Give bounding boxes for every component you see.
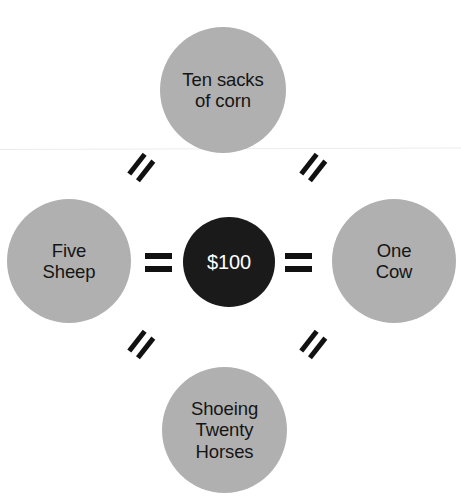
equals-bar-lower [145,266,172,272]
node-five-sheep[interactable]: Five Sheep [7,199,131,323]
equals-sign-top-right [299,151,333,186]
equals-sign-bottom-left [127,328,161,363]
node-one-cow[interactable]: One Cow [332,199,456,323]
equals-sign-top-left [127,151,161,186]
diagram-canvas: Ten sacks of corn Five Sheep $100 One Co… [0,0,461,497]
equals-sign-left [145,252,172,274]
node-ten-sacks-of-corn[interactable]: Ten sacks of corn [160,27,286,153]
node-label-center: $100 [207,251,251,274]
equals-sign-bottom-right [299,328,333,363]
node-label-left: Five Sheep [43,240,96,282]
node-label-bottom: Shoeing Twenty Horses [191,398,258,461]
node-one-hundred-dollars[interactable]: $100 [183,217,275,307]
equals-bar-upper [145,253,172,259]
equals-sign-right [285,252,312,274]
node-label-right: One Cow [376,240,413,282]
equals-bar-lower [285,266,312,272]
node-label-top: Ten sacks of corn [182,69,263,111]
node-shoeing-twenty-horses[interactable]: Shoeing Twenty Horses [162,367,287,493]
equals-bar-upper [285,253,312,259]
